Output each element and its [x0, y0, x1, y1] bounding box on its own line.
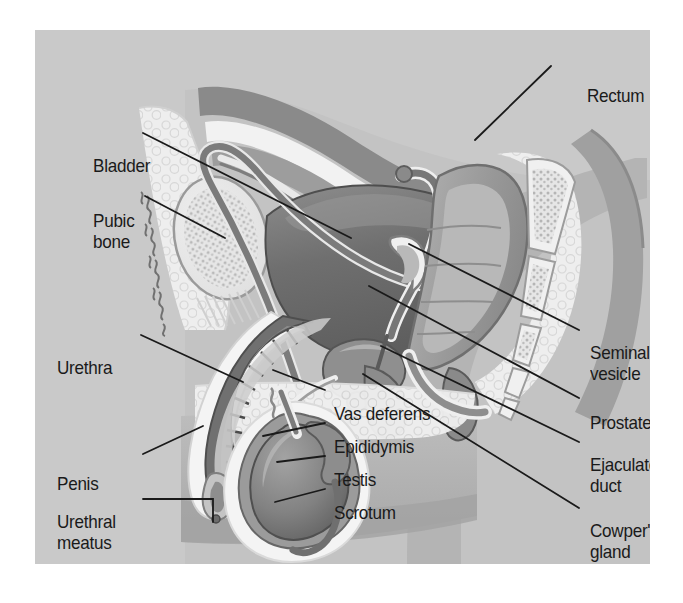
label-ejaculatory-duct: Ejaculatory duct: [590, 454, 650, 496]
label-scrotum: Scrotum: [334, 502, 396, 523]
label-pubic-bone: Pubic bone: [93, 210, 134, 252]
label-penis: Penis: [57, 473, 98, 494]
vas-ampulla-tip: [396, 166, 412, 182]
label-urethra: Urethra: [57, 357, 112, 378]
label-epididymis: Epididymis: [334, 436, 414, 457]
label-testis: Testis: [334, 469, 376, 490]
label-vas-deferens: Vas deferens: [334, 403, 430, 424]
label-bladder: Bladder: [93, 155, 150, 176]
label-prostate: Prostate: [590, 412, 650, 433]
label-rectum: Rectum: [587, 85, 644, 106]
anatomy-figure-panel: Rectum Bladder Pubic bone Urethra Penis …: [35, 30, 650, 564]
label-seminal-vesicle: Seminal vesicle: [590, 342, 650, 384]
label-urethral-meatus: Urethral meatus: [57, 511, 116, 553]
label-cowpers-gland: Cowper's gland: [590, 520, 650, 562]
figure-page: Rectum Bladder Pubic bone Urethra Penis …: [0, 0, 683, 603]
